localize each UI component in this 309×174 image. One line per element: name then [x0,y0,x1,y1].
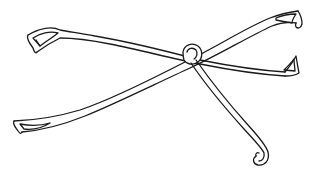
blade-tip-upper-right [296,11,302,28]
forceps-illustration: forceps line drawing [0,0,309,174]
hook-end-icon [256,153,259,156]
pivot-loop [183,44,202,64]
forceps-drawing [0,0,309,174]
hooked-stem [191,60,268,165]
bar-upper-left-to-right [27,28,299,76]
blade-tip-lower-left [13,121,22,133]
blade-tip-upper-left [27,35,37,53]
